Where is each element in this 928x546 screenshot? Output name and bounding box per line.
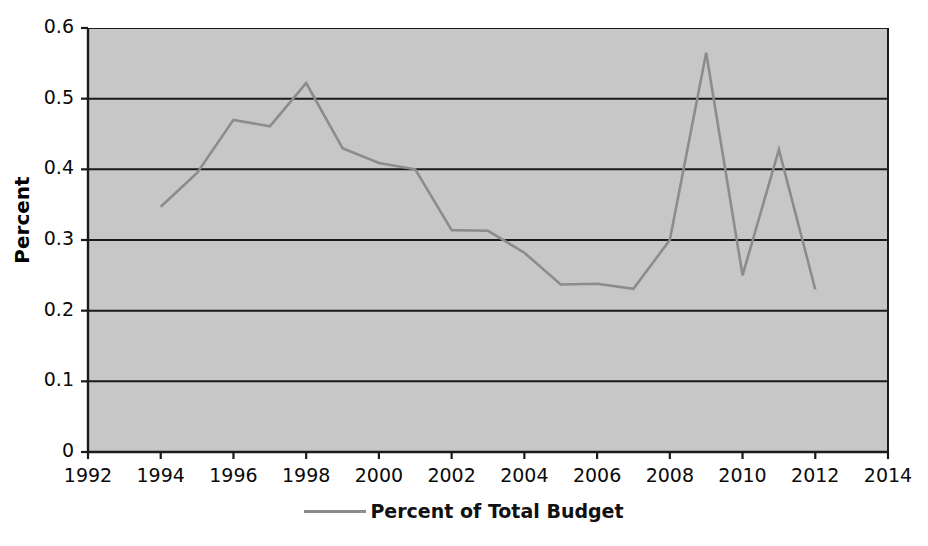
- x-tick-label: 2004: [484, 466, 564, 485]
- y-tick-label: 0.2: [0, 300, 74, 319]
- x-tick-label: 1992: [48, 466, 128, 485]
- y-tick-label: 0.5: [0, 88, 74, 107]
- x-tick-label: 2006: [557, 466, 637, 485]
- legend-label-percent-of-total-budget: Percent of Total Budget: [370, 500, 623, 522]
- x-tick-label: 2014: [848, 466, 928, 485]
- plot-area: [88, 28, 888, 452]
- x-tick-label: 1996: [193, 466, 273, 485]
- x-tick-label: 2000: [339, 466, 419, 485]
- y-tick-label: 0: [0, 441, 74, 460]
- series-lines: [161, 53, 816, 290]
- x-tick-label: 2002: [412, 466, 492, 485]
- y-tick-label: 0.4: [0, 158, 74, 177]
- x-tick-label: 1998: [266, 466, 346, 485]
- x-tick-label: 1994: [121, 466, 201, 485]
- gridlines: [88, 28, 888, 381]
- chart-container: Percent 00.10.20.30.40.50.6 199219941996…: [0, 0, 928, 546]
- series-line-0: [161, 53, 816, 290]
- y-tick-label: 0.6: [0, 17, 74, 36]
- y-tick-label: 0.3: [0, 229, 74, 248]
- x-tick-label: 2012: [775, 466, 855, 485]
- plot-svg: [88, 28, 888, 452]
- legend-line-swatch: [304, 510, 366, 513]
- x-tick-label: 2010: [703, 466, 783, 485]
- legend: Percent of Total Budget: [0, 500, 928, 522]
- y-axis-title: Percent: [10, 160, 34, 280]
- x-tick-label: 2008: [630, 466, 710, 485]
- y-tick-label: 0.1: [0, 370, 74, 389]
